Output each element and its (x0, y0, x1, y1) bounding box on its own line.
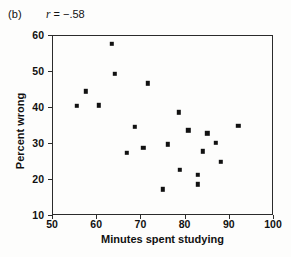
panel-label: (b) (8, 8, 22, 20)
data-point (205, 131, 209, 135)
y-axis-tick-label: 60 (0, 29, 44, 41)
data-point (177, 110, 181, 114)
y-axis-tick-label: 10 (0, 209, 44, 221)
x-axis-tick-label: 60 (90, 218, 102, 230)
data-points-layer (53, 36, 272, 214)
data-point (201, 149, 205, 153)
data-point (236, 123, 240, 127)
data-point (195, 172, 199, 176)
data-point (97, 103, 101, 107)
correlation-annotation: r = −.58 (46, 8, 85, 20)
x-axis-tick-label: 50 (46, 218, 58, 230)
data-point (161, 187, 165, 191)
data-point (141, 145, 145, 149)
y-axis-title: Percent wrong (14, 76, 26, 186)
data-point (75, 104, 79, 108)
data-point (178, 168, 182, 172)
correlation-value: = −.58 (54, 8, 85, 20)
x-axis-tick-label: 100 (264, 218, 282, 230)
data-point (145, 81, 149, 85)
data-point (166, 142, 170, 146)
data-point (113, 72, 117, 76)
data-point (214, 140, 218, 144)
data-point (195, 182, 199, 186)
data-point (125, 150, 129, 154)
x-axis-tick-label: 80 (179, 218, 191, 230)
x-axis-tick-label: 70 (135, 218, 147, 230)
x-axis-tick-label: 90 (223, 218, 235, 230)
data-point (84, 89, 88, 93)
x-axis-title: Minutes spent studying (52, 233, 273, 245)
correlation-symbol: r (46, 8, 50, 20)
data-point (110, 41, 114, 45)
plot-frame (52, 35, 273, 215)
scatter-plot-figure: (b) r = −.58 1020304050605060708090100 P… (0, 0, 291, 257)
data-point (133, 125, 137, 129)
data-point (186, 128, 190, 132)
data-point (219, 160, 223, 164)
